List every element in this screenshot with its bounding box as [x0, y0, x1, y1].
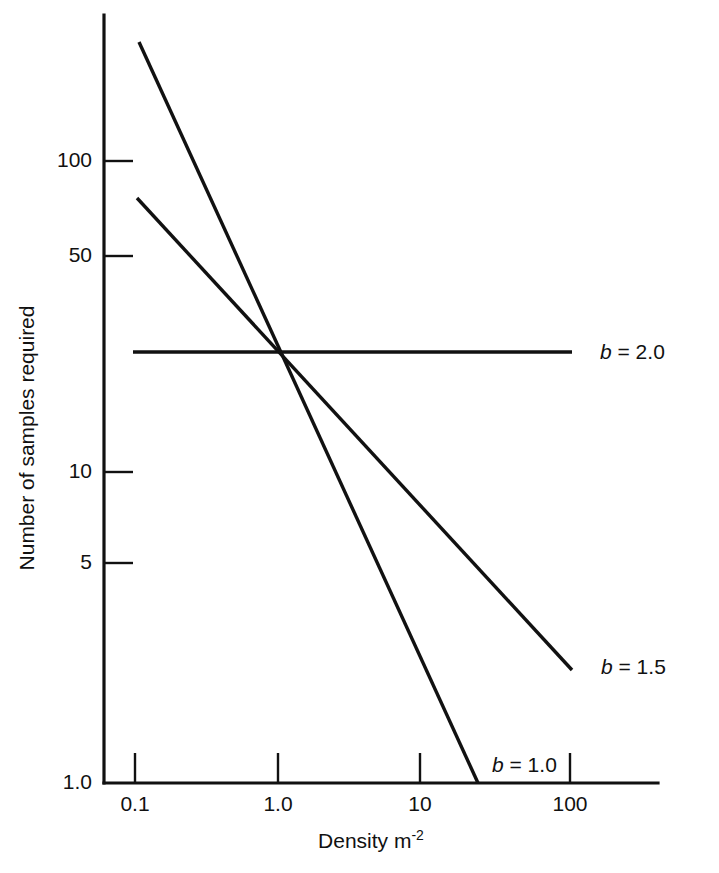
log-log-line-chart: 100 50 10 5 1.0 0.1 1.0 10 100 b = 2.0 b… — [0, 0, 719, 873]
chart-figure: 100 50 10 5 1.0 0.1 1.0 10 100 b = 2.0 b… — [0, 0, 719, 873]
x-tick-label-100: 100 — [552, 792, 587, 815]
y-tick-label-10: 10 — [69, 459, 92, 482]
series-label-b-1-0-rest: = 1.0 — [504, 753, 557, 776]
series-label-b-2-0-rest: = 2.0 — [612, 340, 665, 363]
series-label-b-1-5-rest: = 1.5 — [613, 655, 666, 678]
series-label-b-2-0: b = 2.0 — [600, 340, 665, 363]
series-label-b-1-0-var: b — [492, 753, 504, 776]
x-tick-label-1-0: 1.0 — [263, 792, 292, 815]
series-label-b-1-5: b = 1.5 — [601, 655, 666, 678]
y-tick-label-1-0: 1.0 — [63, 770, 92, 793]
series-line-b-1-0 — [139, 42, 478, 783]
series-label-b-2-0-var: b — [600, 340, 612, 363]
series-label-b-1-0: b = 1.0 — [492, 753, 557, 776]
y-tick-label-5: 5 — [80, 550, 92, 573]
x-axis-title: Density m-2 — [318, 827, 424, 852]
x-axis-title-base: Density m — [318, 829, 411, 852]
series-line-b-1-5 — [137, 198, 572, 670]
series-label-b-1-5-var: b — [601, 655, 613, 678]
x-tick-label-10: 10 — [408, 792, 431, 815]
y-tick-label-100: 100 — [57, 148, 92, 171]
y-axis-title: Number of samples required — [15, 306, 38, 571]
x-axis-title-exponent: -2 — [411, 827, 424, 843]
x-tick-label-0-1: 0.1 — [120, 792, 149, 815]
y-tick-label-50: 50 — [69, 243, 92, 266]
